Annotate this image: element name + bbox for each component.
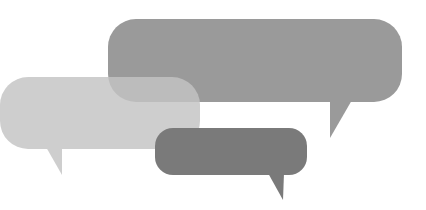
speech-bubbles-illustration [0,0,426,210]
dark-speech-bubble [155,128,307,200]
